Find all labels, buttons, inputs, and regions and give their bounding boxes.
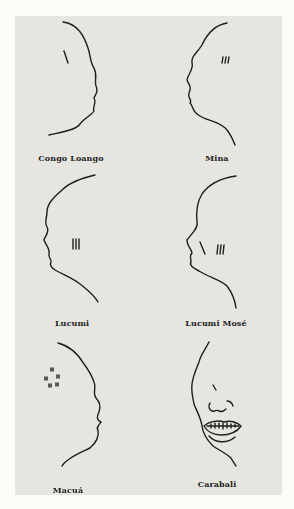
face-profile-right-icon bbox=[0, 0, 147, 170]
figure-lucumi: Lucumi bbox=[0, 170, 147, 340]
face-profile-left-icon bbox=[147, 170, 294, 340]
figure-carabali: Carabali bbox=[147, 340, 294, 509]
caption-congo-loango: Congo Loango bbox=[38, 153, 103, 163]
figure-macua: Macuá bbox=[0, 340, 147, 509]
figure-mina: Mina bbox=[147, 0, 294, 170]
caption-lucumi-mose: Lucumi Mosé bbox=[185, 318, 246, 328]
figure-congo-loango: Congo Loango bbox=[0, 0, 147, 170]
caption-macua: Macuá bbox=[53, 485, 83, 495]
face-profile-right-icon bbox=[0, 340, 147, 509]
face-profile-left-icon bbox=[147, 0, 294, 170]
face-profile-left-icon bbox=[0, 170, 147, 340]
caption-lucumi: Lucumi bbox=[55, 318, 89, 328]
caption-mina: Mina bbox=[205, 153, 228, 163]
figure-lucumi-mose: Lucumi Mosé bbox=[147, 170, 294, 340]
caption-carabali: Carabali bbox=[198, 479, 237, 489]
